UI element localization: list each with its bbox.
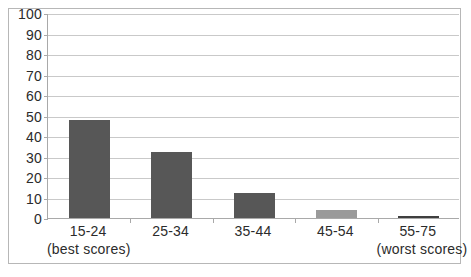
x-axis-category-label: 55-75(worst scores) <box>377 222 459 258</box>
y-axis-tick <box>44 219 48 220</box>
y-axis-tick-label: 40 <box>26 130 42 144</box>
chart-screenshot: 1009080706050403020100 15-24(best scores… <box>0 0 471 277</box>
x-axis-category-label: 25-34 <box>129 222 211 240</box>
bar <box>69 120 110 218</box>
bar-series <box>48 14 459 218</box>
x-axis-category-labels: 15-24(best scores)25-3435-4445-5455-75(w… <box>47 222 459 264</box>
bar <box>151 152 192 218</box>
x-axis-category-name: 55-75 <box>399 223 436 239</box>
bar <box>398 216 439 218</box>
y-axis-tick-label: 10 <box>26 192 42 206</box>
y-axis-tick-labels: 1009080706050403020100 <box>9 14 45 219</box>
x-axis-category-name: 45-54 <box>317 223 354 239</box>
x-axis-category-label: 15-24(best scores) <box>47 222 129 258</box>
y-axis-tick-label: 80 <box>26 48 42 62</box>
bar <box>234 193 275 218</box>
y-axis-tick-label: 30 <box>26 151 42 165</box>
y-axis-tick-label: 100 <box>18 7 42 21</box>
y-axis-tick-label: 90 <box>26 28 42 42</box>
y-axis-tick-label: 70 <box>26 69 42 83</box>
y-axis-tick-label: 0 <box>34 212 42 226</box>
x-axis-category-name: 25-34 <box>152 223 189 239</box>
x-axis-category-name: 35-44 <box>235 223 272 239</box>
chart-plot-wrapper: 1009080706050403020100 15-24(best scores… <box>9 9 460 263</box>
x-axis-category-name: 15-24 <box>70 223 107 239</box>
plot-area <box>47 14 459 219</box>
x-axis-category-note: (best scores) <box>47 240 129 258</box>
x-axis-category-label: 45-54 <box>294 222 376 240</box>
y-axis-tick-label: 50 <box>26 110 42 124</box>
y-axis-tick-label: 20 <box>26 171 42 185</box>
x-axis-category-label: 35-44 <box>212 222 294 240</box>
x-axis-category-note: (worst scores) <box>377 240 459 258</box>
y-axis-tick-label: 60 <box>26 89 42 103</box>
bar <box>316 210 357 218</box>
chart-frame: 1009080706050403020100 15-24(best scores… <box>8 8 461 264</box>
